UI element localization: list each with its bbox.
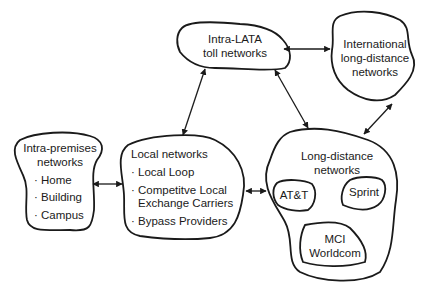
arrow-intralata-local [183,69,205,135]
intra-lata-line2: toll networks [190,47,280,61]
intra-premises-line2: networks [20,156,100,170]
long-distance-label: Long-distance networks [292,150,382,178]
carrier-att: AT&T [274,189,314,203]
intra-lata-label: Intra-LATA toll networks [190,33,280,61]
intra-premises-line1: Intra-premises [20,142,100,156]
local-item-clec-2: Exchange Carriers [131,197,233,211]
long-distance-line2: networks [292,164,382,178]
international-line3: networks [340,66,410,80]
carrier-sprint: Sprint [343,186,385,200]
international-line2: long-distance [340,52,410,66]
local-item-clec-1: · Competitve Local [131,184,233,198]
intra-lata-line1: Intra-LATA [190,33,280,47]
premises-item-home: · Home [20,174,100,188]
local-item-loop: · Local Loop [131,166,233,180]
local-networks-title: Local networks [131,148,233,162]
carrier-mci-worldcom: MCI Worldcom [305,233,365,261]
carrier-worldcom: Worldcom [305,247,365,261]
premises-item-campus: · Campus [20,209,100,223]
local-item-bypass: · Bypass Providers [131,215,233,229]
international-line1: International [340,38,410,52]
intra-premises-label: Intra-premises networks · Home · Buildin… [20,142,100,223]
arrow-intralata-longdistance [275,70,308,128]
premises-item-building: · Building [20,191,100,205]
arrow-international-longdistance [364,104,392,134]
local-networks-label: Local networks · Local Loop · Competitve… [131,148,233,229]
carrier-mci: MCI [305,233,365,247]
long-distance-line1: Long-distance [292,150,382,164]
international-label: International long-distance networks [340,38,410,79]
